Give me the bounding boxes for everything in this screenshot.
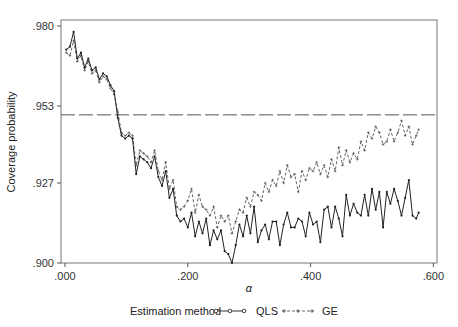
y-tick-label: .900	[33, 257, 54, 269]
y-axis-title: Coverage probability	[5, 91, 17, 192]
legend-label-qls: QLS	[256, 305, 278, 317]
x-tick-label: .400	[300, 270, 321, 282]
coverage-probability-chart: .900.927.953.980 .000.200.400.600 Covera…	[0, 0, 458, 327]
x-tick-label: .000	[54, 270, 75, 282]
x-axis-title: α	[246, 282, 253, 294]
y-tick-label: .927	[33, 177, 54, 189]
y-tick-label: .953	[33, 100, 54, 112]
y-tick-label: .980	[33, 20, 54, 32]
x-tick-label: .200	[177, 270, 198, 282]
legend-title: Estimation method	[130, 305, 221, 317]
x-tick-label: .600	[423, 270, 444, 282]
legend-label-ge: GE	[322, 305, 338, 317]
